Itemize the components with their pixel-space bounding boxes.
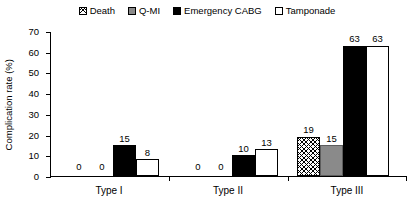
chart-legend: Death Q-MI Emergency CABG Tamponade	[0, 6, 414, 16]
y-tick-label-0: 0	[34, 172, 39, 182]
y-axis-title-text: Complication rate (%)	[4, 59, 14, 150]
bar-value-type-iii-tamponade: 63	[372, 34, 383, 44]
bar-value-type-i-emergency-cabg: 15	[119, 134, 130, 144]
bar-type-ii-tamponade	[255, 149, 278, 176]
y-tick-label-40: 40	[28, 89, 39, 99]
y-tick-label-30: 30	[28, 110, 39, 120]
bar-type-iii-death	[297, 137, 320, 176]
plot-area: 0 10 20 30 40 50 60 70 0 0	[50, 32, 406, 177]
x-axis-label-type-ii: Type II	[213, 186, 243, 196]
bar-value-type-i-death: 0	[76, 162, 81, 172]
legend-label-death: Death	[90, 6, 115, 16]
y-tick-label-60: 60	[28, 48, 39, 58]
x-axis-label-type-iii: Type III	[331, 186, 364, 196]
bar-value-type-ii-emergency-cabg: 10	[238, 144, 249, 154]
y-axis-title: Complication rate (%)	[2, 32, 16, 177]
bar-value-type-iii-death: 19	[303, 125, 314, 135]
crosshatch-swatch-icon	[79, 7, 87, 15]
bar-type-ii-emergency-cabg	[232, 155, 255, 176]
bar-type-i-tamponade	[136, 159, 159, 176]
y-tick-50: 50	[46, 73, 50, 74]
bar-value-type-i-q-mi: 0	[99, 162, 104, 172]
legend-item-emergency-cabg: Emergency CABG	[173, 6, 262, 16]
bar-value-type-iii-emergency-cabg: 63	[349, 34, 360, 44]
legend-label-tamponade: Tamponade	[286, 6, 336, 16]
bar-value-type-i-tamponade: 8	[145, 148, 150, 158]
y-tick-10: 10	[46, 156, 50, 157]
white-swatch-icon	[275, 7, 283, 15]
complication-rate-bar-chart: Death Q-MI Emergency CABG Tamponade Comp…	[0, 0, 414, 215]
y-tick-60: 60	[46, 53, 50, 54]
y-tick-40: 40	[46, 94, 50, 95]
bar-type-iii-q-mi	[320, 145, 343, 176]
x-axis-label-type-i: Type I	[95, 186, 122, 196]
y-tick-label-50: 50	[28, 69, 39, 79]
x-tick-group-3	[406, 176, 407, 181]
y-axis-line	[50, 32, 51, 178]
legend-item-death: Death	[79, 6, 115, 16]
black-swatch-icon	[173, 7, 181, 15]
bar-value-type-ii-tamponade: 13	[261, 138, 272, 148]
bar-value-type-ii-death: 0	[195, 162, 200, 172]
y-tick-70: 70	[46, 32, 50, 33]
bar-type-i-emergency-cabg	[113, 145, 136, 176]
gray-swatch-icon	[128, 7, 136, 15]
bar-type-iii-emergency-cabg	[343, 46, 366, 177]
y-tick-0: 0	[46, 177, 50, 178]
y-tick-20: 20	[46, 136, 50, 137]
y-tick-label-70: 70	[28, 27, 39, 37]
bar-value-type-ii-q-mi: 0	[218, 162, 223, 172]
x-tick-group-1	[169, 176, 170, 181]
legend-label-emergency-cabg: Emergency CABG	[184, 6, 262, 16]
bar-type-iii-tamponade	[366, 46, 389, 177]
x-axis-line	[50, 176, 407, 177]
legend-item-tamponade: Tamponade	[275, 6, 336, 16]
x-tick-group-2	[288, 176, 289, 181]
bar-value-type-iii-q-mi: 15	[326, 134, 337, 144]
y-tick-label-20: 20	[28, 131, 39, 141]
legend-item-q-mi: Q-MI	[128, 6, 160, 16]
legend-label-q-mi: Q-MI	[139, 6, 160, 16]
y-tick-30: 30	[46, 115, 50, 116]
y-tick-label-10: 10	[28, 152, 39, 162]
